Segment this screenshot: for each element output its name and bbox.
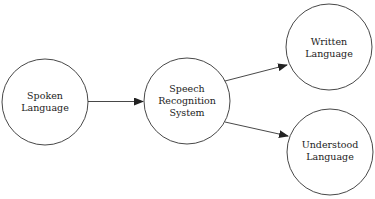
node-label: Recognition <box>158 95 216 106</box>
edge-speech-to-written <box>225 65 287 81</box>
node-label: Written <box>311 36 347 47</box>
node-label: Speech <box>169 83 204 94</box>
node-understood-language: Understood Language <box>287 109 373 195</box>
node-label: Language <box>305 48 353 59</box>
node-label: System <box>169 107 204 118</box>
node-label: Spoken <box>27 90 63 101</box>
node-written-language: Written Language <box>286 4 372 90</box>
node-label: Language <box>306 151 354 162</box>
node-label: Understood <box>302 139 359 150</box>
node-spoken-language: Spoken Language <box>2 59 88 145</box>
node-speech-recognition-system: Speech Recognition System <box>144 58 230 144</box>
edge-speech-to-understood <box>225 122 288 136</box>
flow-diagram: Spoken Language Speech Recognition Syste… <box>0 0 375 199</box>
node-label: Language <box>21 102 69 113</box>
